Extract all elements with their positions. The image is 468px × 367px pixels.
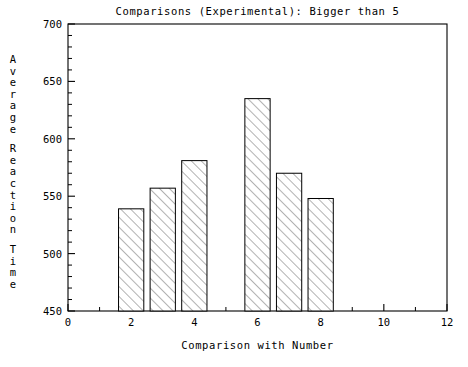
bar: [308, 198, 333, 311]
bar-series: [119, 99, 334, 311]
x-tick-label: 6: [246, 316, 270, 328]
x-tick-label: 10: [372, 316, 396, 328]
y-axis-label: Average Reaction Time: [6, 54, 20, 290]
bar: [119, 209, 144, 311]
plot-area: [0, 0, 468, 367]
x-tick-label: 8: [309, 316, 333, 328]
x-tick-label: 12: [435, 316, 459, 328]
y-tick-label: 700: [32, 19, 62, 29]
x-tick-label: 0: [56, 316, 80, 328]
y-tick-label: 550: [32, 191, 62, 201]
bar: [245, 99, 270, 311]
y-tick-label: 600: [32, 134, 62, 144]
y-tick-label-group: 450500550600650700: [28, 0, 62, 367]
bar: [276, 173, 301, 311]
y-axis-label-word-1: Average: [6, 54, 20, 135]
y-axis-label-word-3: Time: [6, 244, 20, 290]
x-tick-label: 4: [182, 316, 206, 328]
bar: [182, 161, 207, 311]
y-axis-label-word-2: Reaction: [6, 143, 20, 236]
chart-title: Comparisons (Experimental): Bigger than …: [68, 4, 447, 18]
y-tick-label: 500: [32, 249, 62, 259]
y-tick-label: 650: [32, 76, 62, 86]
bar: [150, 188, 175, 311]
bar-chart: Comparisons (Experimental): Bigger than …: [0, 0, 468, 367]
x-tick-label: 2: [119, 316, 143, 328]
x-axis-label: Comparison with Number: [68, 339, 447, 351]
y-tick-label: 450: [32, 306, 62, 316]
